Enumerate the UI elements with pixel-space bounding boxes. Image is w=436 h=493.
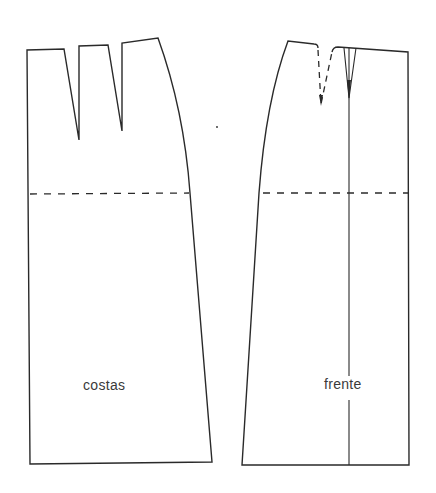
back-piece	[27, 38, 212, 464]
pattern-diagram	[0, 0, 436, 493]
back-hip-line	[30, 193, 189, 194]
back-piece-label: costas	[82, 377, 126, 393]
back-piece-outline	[27, 38, 212, 464]
front-piece	[242, 41, 409, 465]
front-pleat-dart	[344, 48, 356, 98]
front-piece-outline	[242, 41, 409, 465]
stray-dot	[216, 126, 218, 128]
front-piece-label: frente	[323, 376, 363, 392]
